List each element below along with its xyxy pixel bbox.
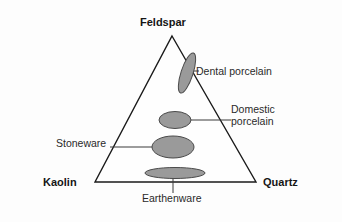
region-label-earthenware: Earthenware (142, 192, 202, 204)
region-ellipse-domestic-porcelain (159, 112, 191, 129)
region-label-dental-porcelain: Dental porcelain (196, 65, 272, 77)
vertex-label-quartz: Quartz (263, 176, 298, 188)
region-label-stoneware: Stoneware (56, 137, 106, 149)
vertex-label-kaolin: Kaolin (43, 176, 77, 188)
region-label-domestic-line2: porcelain (231, 115, 275, 127)
region-ellipse-earthenware (145, 168, 205, 179)
region-ellipse-stoneware (152, 136, 194, 158)
ternary-diagram-figure: Feldspar Kaolin Quartz Dental porcelain … (0, 0, 342, 222)
ternary-diagram-canvas (0, 0, 342, 222)
vertex-label-feldspar: Feldspar (140, 16, 186, 28)
region-label-domestic-porcelain: Domestic porcelain (231, 103, 275, 127)
region-label-domestic-line1: Domestic (231, 103, 275, 115)
